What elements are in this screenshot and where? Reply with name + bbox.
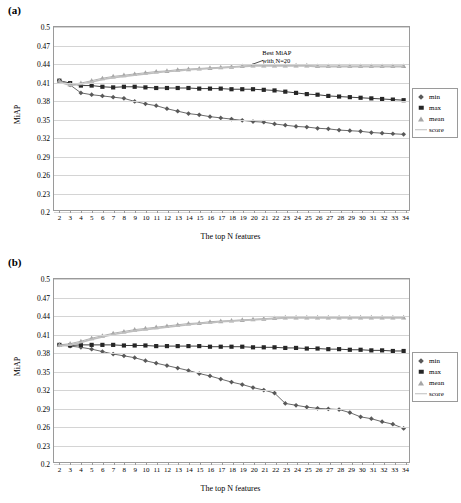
series-marker-min [347, 128, 352, 133]
y-tick-label: 0.38 [37, 349, 50, 358]
x-tick [330, 462, 331, 465]
x-tick-label: 26 [316, 214, 323, 222]
x-tick [114, 210, 115, 213]
x-tick-label: 4 [79, 466, 83, 474]
x-tick [406, 462, 407, 465]
x-tick-label: 16 [207, 466, 214, 474]
series-marker-max [305, 92, 309, 96]
x-tick [178, 462, 179, 465]
series-marker-max [100, 343, 104, 347]
x-tick [362, 210, 363, 213]
x-tick [81, 462, 82, 465]
x-tick-label: 32 [380, 466, 387, 474]
x-tick-label: 4 [79, 214, 83, 222]
series-marker-max [122, 85, 126, 89]
series-marker-min [347, 410, 352, 415]
series-marker-max [143, 85, 147, 89]
x-tick-label: 6 [101, 214, 105, 222]
series-marker-max [111, 85, 115, 89]
x-tick-label: 24 [294, 214, 301, 222]
series-marker-min [111, 95, 116, 100]
panel-a-plot-area: 0.20.230.260.290.320.350.380.410.440.470… [53, 26, 410, 211]
series-marker-min [89, 347, 94, 352]
x-tick [352, 210, 353, 213]
series-marker-min [401, 132, 406, 137]
x-tick-label: 19 [240, 214, 247, 222]
y-tick-label: 0.29 [37, 404, 50, 413]
series-marker-min [218, 377, 223, 382]
x-tick-label: 23 [283, 214, 290, 222]
series-marker-max [337, 94, 341, 98]
x-tick-label: 8 [123, 466, 127, 474]
legend-item-score: score [415, 388, 454, 399]
x-tick [276, 210, 277, 213]
legend-label-mean: mean [429, 115, 444, 123]
series-marker-min [240, 382, 245, 387]
x-tick [222, 462, 223, 465]
series-marker-min [165, 106, 170, 111]
panel-a-legend: minmaxmeanscore [412, 88, 458, 138]
series-marker-max [348, 348, 352, 352]
x-tick-label: 7 [112, 214, 116, 222]
y-tick-label: 0.32 [37, 386, 50, 395]
x-tick-label: 34 [402, 466, 409, 474]
series-marker-max [315, 93, 319, 97]
x-tick-label: 29 [348, 466, 355, 474]
x-tick [124, 210, 125, 213]
x-tick [297, 210, 298, 213]
series-marker-min [390, 422, 395, 427]
x-tick [59, 462, 60, 465]
x-tick [243, 462, 244, 465]
series-marker-max [262, 345, 266, 349]
line-icon [415, 125, 427, 134]
series-marker-max [251, 87, 255, 91]
y-tick-label: 0.5 [41, 23, 50, 32]
x-tick-label: 34 [402, 214, 409, 222]
x-tick-label: 12 [164, 214, 171, 222]
triangle-icon [415, 378, 427, 387]
x-tick-label: 14 [186, 466, 193, 474]
x-tick [211, 210, 212, 213]
x-tick-label: 22 [272, 466, 279, 474]
gridline [54, 279, 409, 280]
x-tick-label: 26 [316, 466, 323, 474]
y-tick-label: 0.29 [37, 152, 50, 161]
series-marker-max [208, 345, 212, 349]
x-tick-label: 14 [186, 214, 193, 222]
x-tick-label: 5 [90, 466, 94, 474]
x-tick [222, 210, 223, 213]
x-tick [70, 462, 71, 465]
series-marker-max [219, 345, 223, 349]
x-tick-label: 9 [133, 466, 137, 474]
legend-label-min: min [429, 93, 440, 101]
panel-a-x-axis-title: The top N features [0, 232, 461, 241]
series-marker-max [294, 346, 298, 350]
legend-item-max: max [415, 366, 454, 377]
x-tick-label: 33 [391, 214, 398, 222]
x-tick-label: 28 [337, 214, 344, 222]
x-tick-label: 17 [218, 214, 225, 222]
chart-panel-b: (b) MiAP The top N features 0.20.230.260… [0, 252, 461, 503]
x-tick [135, 210, 136, 213]
x-tick [233, 210, 234, 213]
gridline [54, 27, 409, 28]
series-marker-max [315, 346, 319, 350]
x-tick-label: 17 [218, 466, 225, 474]
legend-item-mean: mean [415, 113, 454, 124]
panel-b-y-axis-title: MiAP [13, 337, 22, 397]
legend-item-min: min [415, 91, 454, 102]
series-marker-max [197, 344, 201, 348]
x-tick-label: 32 [380, 214, 387, 222]
series-marker-max [165, 344, 169, 348]
series-marker-min [380, 131, 385, 136]
x-tick-label: 25 [305, 466, 312, 474]
gridline [54, 175, 409, 176]
x-tick [373, 462, 374, 465]
x-tick [297, 462, 298, 465]
legend-item-max: max [415, 102, 454, 113]
series-marker-max [283, 90, 287, 94]
gridline [54, 46, 409, 47]
y-tick-label: 0.26 [37, 423, 50, 432]
x-tick-label: 11 [153, 466, 160, 474]
series-marker-max [133, 343, 137, 347]
